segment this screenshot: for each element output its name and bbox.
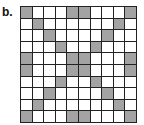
grid-cell-empty [91,30,102,41]
grid-cell-shaded [125,7,136,18]
grid-cell-empty [102,65,113,76]
panel-label: b. [2,5,13,19]
grid-cell-shaded [21,111,32,122]
grid-cell-shaded [102,88,113,99]
grid-cell-empty [56,19,67,30]
grid-cell-empty [114,65,125,76]
grid-cell-empty [67,100,78,111]
grid-cell-empty [114,42,125,53]
grid-cell-empty [91,88,102,99]
grid-cell-empty [44,65,55,76]
grid-cell-shaded [67,7,78,18]
grid-cell-empty [21,77,32,88]
grid-cell-shaded [114,19,125,30]
grid-cell-empty [44,77,55,88]
grid-cell-shaded [67,65,78,76]
grid-cell-empty [33,53,44,64]
grid-cell-empty [44,42,55,53]
grid-cell-shaded [67,111,78,122]
grid-cell-shaded [79,65,90,76]
grid-cell-empty [56,100,67,111]
grid-cell-shaded [33,19,44,30]
grid-cell-empty [91,7,102,18]
grid-cell-empty [67,30,78,41]
grid-cell-empty [91,100,102,111]
grid-cell-empty [102,77,113,88]
grid-cell-shaded [102,30,113,41]
grid-cell-empty [67,77,78,88]
grid-cell-empty [67,19,78,30]
grid-cell-empty [21,19,32,30]
grid-cell-shaded [56,77,67,88]
grid-cell-empty [56,65,67,76]
grid-cell-empty [114,7,125,18]
grid-cell-empty [44,100,55,111]
grid-cell-empty [21,88,32,99]
grid-cell-empty [102,42,113,53]
grid-cell-empty [33,65,44,76]
grid-cell-empty [114,111,125,122]
grid-cell-empty [21,100,32,111]
grid-cell-empty [44,53,55,64]
grid-cell-empty [102,53,113,64]
grid-cell-empty [21,30,32,41]
grid-cell-empty [56,88,67,99]
grid-cell-empty [125,100,136,111]
grid-cell-shaded [125,65,136,76]
grid-cell-empty [91,65,102,76]
grid-cell-shaded [125,53,136,64]
grid-cell-empty [125,30,136,41]
grid-cell-shaded [21,65,32,76]
grid-cell-shaded [79,111,90,122]
grid-cell-empty [79,30,90,41]
grid-cell-shaded [33,100,44,111]
grid-cell-empty [125,77,136,88]
grid-cell-shaded [56,42,67,53]
grid-cell-empty [56,7,67,18]
grid-cell-empty [114,30,125,41]
grid-cell-empty [33,88,44,99]
grid-cell-empty [102,100,113,111]
grid-cell-empty [91,111,102,122]
grid-cell-empty [79,77,90,88]
grid-cell-empty [125,42,136,53]
pattern-grid [20,6,137,123]
grid-cell-empty [79,42,90,53]
grid-cell-shaded [21,7,32,18]
grid-cell-empty [33,77,44,88]
grid-cell-shaded [21,53,32,64]
grid-cell-empty [33,111,44,122]
grid-cell-empty [114,88,125,99]
grid-cell-empty [33,7,44,18]
grid-cell-empty [33,30,44,41]
grid-cell-empty [44,7,55,18]
grid-cell-empty [114,77,125,88]
grid-cell-empty [56,30,67,41]
grid-cell-empty [56,111,67,122]
grid-cell-shaded [91,42,102,53]
grid-cell-shaded [44,30,55,41]
grid-cell-empty [67,42,78,53]
grid-cell-shaded [67,53,78,64]
grid-cell-empty [91,53,102,64]
grid-cell-shaded [125,111,136,122]
grid-cell-empty [44,19,55,30]
grid-cell-empty [33,42,44,53]
grid-cell-empty [125,88,136,99]
grid-cell-shaded [91,77,102,88]
grid-cell-empty [56,53,67,64]
grid-cell-shaded [44,88,55,99]
grid-cell-empty [79,19,90,30]
grid-cell-empty [91,19,102,30]
grid-cell-empty [102,111,113,122]
grid-cell-empty [44,111,55,122]
grid-cell-empty [102,19,113,30]
grid-cell-empty [79,100,90,111]
grid-cell-shaded [79,7,90,18]
grid-cell-empty [102,7,113,18]
grid-cell-shaded [114,100,125,111]
grid-cell-empty [67,88,78,99]
grid-cell-empty [21,42,32,53]
grid-cell-empty [125,19,136,30]
grid-cell-empty [79,88,90,99]
